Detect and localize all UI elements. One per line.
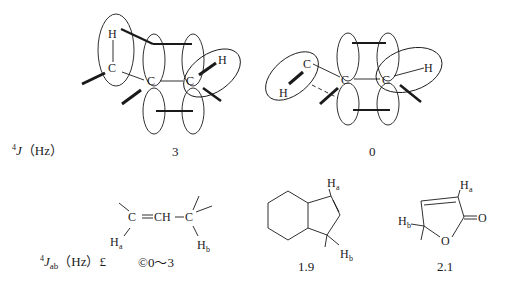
atom-h: H — [424, 61, 433, 75]
atom-o-ring: O — [441, 234, 450, 248]
atom-c: C — [382, 73, 390, 87]
atom-hb-sub: b — [407, 221, 411, 230]
atom-h: H — [218, 53, 227, 67]
conformation-a-value: 3 — [172, 145, 179, 158]
orbital-lobe — [257, 42, 328, 109]
hexahydroindene — [268, 189, 340, 247]
atom-ha: H — [460, 178, 469, 192]
atom-hb: H — [340, 247, 349, 261]
atom-o-carbonyl: O — [478, 211, 487, 225]
atom-ha: H — [327, 176, 336, 190]
conformation-b-value: 0 — [369, 145, 376, 158]
orbital-lobe — [337, 83, 359, 125]
atom-c: C — [128, 210, 136, 224]
orbital-lobe — [377, 83, 399, 125]
bottom-row-label: 4Jab（Hz）£ — [40, 255, 106, 271]
furanone-atoms: H a H b O O — [398, 178, 487, 248]
atom-hb-sub: b — [349, 254, 353, 263]
label-unit: （Hz） — [22, 143, 63, 158]
allylic-range-value: ©0～3 — [138, 256, 174, 269]
furanone-value: 2.1 — [437, 260, 453, 273]
top-row-label: 4J（Hz） — [12, 144, 63, 157]
atom-c: C — [303, 57, 311, 71]
conformation-b — [257, 33, 448, 125]
atom-hb-sub: b — [206, 245, 210, 254]
atom-hb: H — [197, 238, 206, 252]
hexahydroindene-value: 1.9 — [298, 260, 314, 273]
atom-ha-sub: a — [119, 242, 123, 251]
label-subscript: ab — [50, 261, 59, 271]
atom-hb: H — [398, 214, 407, 228]
label-unit: （Hz）£ — [58, 254, 106, 269]
atom-ch: CH — [154, 210, 171, 224]
atom-h: H — [108, 27, 117, 41]
furanone — [411, 190, 477, 240]
orbital-lobe — [175, 39, 249, 107]
allylic-chain-atoms: C CH C H a H b — [110, 210, 210, 254]
atom-c: C — [186, 74, 194, 88]
atom-c: C — [147, 74, 155, 88]
diagram-canvas: H C C C H C H C C H — [0, 0, 506, 286]
atom-ha-sub: a — [469, 185, 473, 194]
atom-c: C — [108, 61, 116, 75]
atom-c: C — [185, 210, 193, 224]
atom-c: C — [341, 73, 349, 87]
atom-ha-sub: a — [336, 183, 340, 192]
atom-h: H — [279, 86, 288, 100]
atom-ha: H — [110, 235, 119, 249]
conformation-a-atoms: H C C C H — [108, 27, 227, 88]
hexahydroindene-atoms: H a H b — [327, 176, 353, 263]
